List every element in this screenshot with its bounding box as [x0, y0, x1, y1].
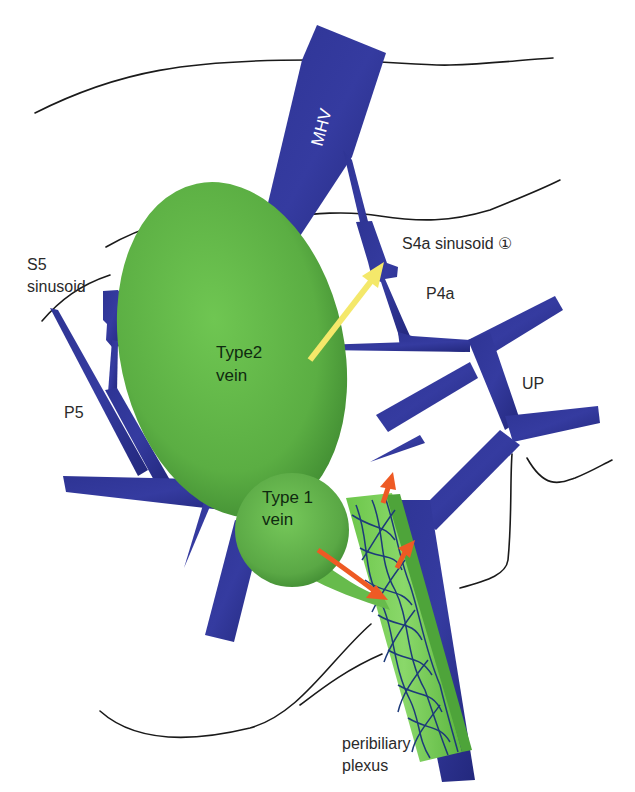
peribiliary-label-line1: peribiliary: [342, 735, 410, 752]
type2-vein-label-line2: vein: [216, 366, 247, 385]
type2-vein-label-line1: Type2: [216, 343, 262, 362]
p5-label: P5: [64, 404, 84, 421]
p4a-label: P4a: [426, 285, 455, 302]
type1-vein-label-line2: vein: [262, 510, 293, 529]
s4a-sinusoid-label: S4a sinusoid ①: [402, 235, 512, 252]
peribiliary-plexus: [346, 493, 472, 762]
sinusoid-label: sinusoid: [27, 278, 86, 295]
plexus-label-line2: plexus: [342, 757, 388, 774]
type1-vein-label-line1: Type 1: [262, 488, 313, 507]
s5-label: S5: [27, 256, 47, 273]
up-label: UP: [522, 375, 544, 392]
diagram-canvas: MHV: [0, 0, 635, 792]
